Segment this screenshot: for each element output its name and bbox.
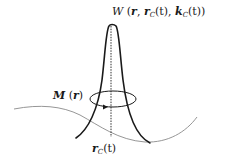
wavepacket-diagram xyxy=(0,0,228,163)
paren-open: ( xyxy=(65,89,73,102)
time-arg: (t) xyxy=(188,5,201,18)
ring-label: M (r) xyxy=(53,90,83,101)
center-label: rC(t) xyxy=(92,143,116,156)
time-arg: (t) xyxy=(155,5,168,18)
trajectory-curve xyxy=(14,106,197,142)
wavepacket-peak xyxy=(76,25,150,144)
paren-open: ( xyxy=(123,5,131,18)
momentum-kc: k xyxy=(175,5,183,18)
wavepacket-label: W (r, rC(t), kC(t)) xyxy=(112,6,205,19)
m-symbol: M xyxy=(53,89,65,102)
comma: , xyxy=(137,5,144,18)
paren-close: ) xyxy=(79,89,83,102)
paren-close: ) xyxy=(201,5,205,18)
time-arg: (t) xyxy=(103,142,116,155)
w-symbol: W xyxy=(112,5,123,18)
ring-ellipse xyxy=(90,91,136,107)
arrow-icon xyxy=(103,105,108,110)
